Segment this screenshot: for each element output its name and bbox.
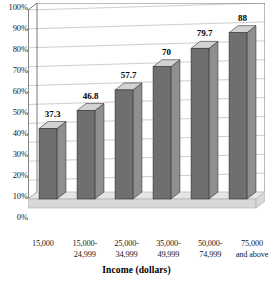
bar-6 [229,26,256,199]
value-label: 79.7 [185,29,225,38]
y-tick-label: 80% [0,45,28,54]
y-axis: 100% 90% 80% 70% 60% 50% 40% 30% 20% 10%… [0,0,28,240]
y-tick-label: 90% [0,24,28,33]
bar-1 [39,122,66,199]
y-tick-label: 10% [0,192,28,201]
x-tick-label: 25,000-34,999 [106,239,148,265]
x-tick-label: 50,000-74,999 [189,239,231,265]
y-tick-label: 50% [0,108,28,117]
x-axis-title: Income (dollars) [0,265,273,275]
value-label: 46.8 [71,92,111,101]
value-label: 70 [147,48,187,57]
value-label: 57.7 [109,71,149,80]
bar-4 [153,60,180,199]
x-tick-label: 15,000-24,999 [64,239,106,265]
value-label: 37.3 [33,110,73,119]
y-tick-label: 70% [0,66,28,75]
value-label: 88 [223,14,263,23]
y-tick-label: 40% [0,129,28,138]
bar-3 [115,83,142,199]
left-wall [28,3,37,199]
y-tick-label: 60% [0,87,28,96]
y-tick-label: 20% [0,171,28,180]
bar-2 [77,104,104,199]
bar-5 [191,41,218,199]
bar-chart: 100% 90% 80% 70% 60% 50% 40% 30% 20% 10%… [0,0,273,284]
x-tick-label: 35,000-49,999 [147,239,189,265]
x-tick-label: 75,000and above [231,239,273,265]
floor-front [28,199,256,208]
x-axis-labels: 15,00015,000-24,99925,000-34,99935,000-4… [22,239,273,265]
y-tick-label: 0% [0,213,28,222]
x-tick-label: 15,000 [22,239,64,265]
y-tick-label: 100% [0,3,28,12]
y-tick-label: 30% [0,150,28,159]
